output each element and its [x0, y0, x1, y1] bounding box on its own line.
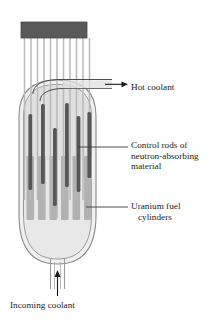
control-rod — [53, 128, 57, 206]
control-rod — [87, 112, 91, 178]
label-incoming-coolant: Incoming coolant — [10, 300, 75, 311]
control-rod — [77, 116, 81, 192]
control-rod-drive-block — [21, 22, 87, 38]
label-uranium-fuel-cylinders: Uranium fuelcylinders — [131, 201, 180, 222]
label-uranium-line2: cylinders — [131, 212, 172, 222]
control-rod — [41, 104, 45, 184]
label-control-rods-line2: neutron-absorbing — [131, 151, 199, 161]
label-control-rods: Control rods ofneutron-absorbingmaterial — [131, 140, 199, 172]
label-uranium-line1: Uranium fuel — [131, 201, 180, 211]
control-rod — [28, 114, 32, 190]
label-hot-coolant: Hot coolant — [131, 82, 174, 93]
incoming-coolant-arrow-icon — [55, 270, 61, 296]
label-control-rods-line1: Control rods of — [131, 140, 187, 150]
control-rod — [65, 103, 69, 187]
label-control-rods-line3: material — [131, 161, 161, 171]
